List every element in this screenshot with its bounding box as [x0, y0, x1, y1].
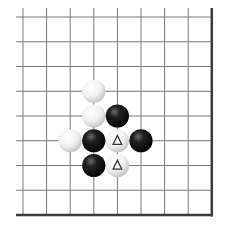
black-stone [82, 129, 105, 152]
white-stone-body [82, 104, 105, 127]
white-stone [82, 104, 105, 127]
black-stone [106, 104, 129, 127]
white-stone [106, 154, 129, 177]
black-stone-body [106, 104, 129, 127]
white-stone-body [59, 129, 82, 152]
white-stone [106, 129, 129, 152]
white-stone [59, 129, 82, 152]
white-stone-body [106, 129, 129, 152]
board-stones [59, 80, 153, 177]
white-stone [82, 80, 105, 103]
white-stone-body [82, 80, 105, 103]
black-stone-body [82, 154, 105, 177]
white-stone-body [106, 154, 129, 177]
black-stone [82, 154, 105, 177]
go-board [0, 0, 225, 233]
black-stone-body [129, 129, 152, 152]
black-stone-body [82, 129, 105, 152]
black-stone [129, 129, 152, 152]
